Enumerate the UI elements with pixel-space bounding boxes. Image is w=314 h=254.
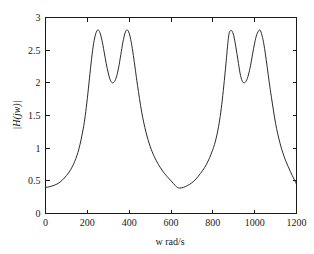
x-tick-label: 1000 (245, 217, 265, 228)
x-tick-label: 600 (164, 217, 179, 228)
x-tick-label: 800 (205, 217, 220, 228)
y-tick-label: 2 (36, 77, 41, 88)
y-tick-label: 3 (36, 12, 41, 23)
y-tick-label: 2.5 (28, 45, 41, 56)
x-tick-label: 1200 (287, 217, 307, 228)
x-tick-label: 200 (80, 217, 95, 228)
y-tick-label: 0 (36, 208, 41, 219)
chart-figure: 020040060080010001200 00.511.522.53 w ra… (0, 0, 314, 254)
y-tick-label: 1.5 (28, 110, 41, 121)
x-axis-title: w rad/s (155, 236, 184, 247)
x-tick-label: 400 (122, 217, 137, 228)
y-axis-title: |H(jw)| (11, 101, 23, 130)
frequency-response-plot: 020040060080010001200 00.511.522.53 w ra… (0, 0, 314, 254)
y-tick-label: 1 (36, 143, 41, 154)
x-tick-label: 0 (43, 217, 48, 228)
y-tick-label: 0.5 (28, 175, 41, 186)
